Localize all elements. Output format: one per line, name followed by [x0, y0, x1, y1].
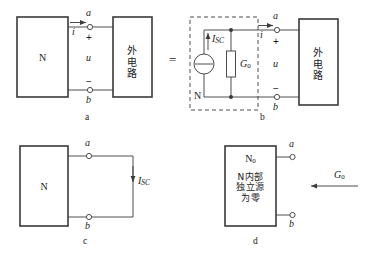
- panel-d-terminal-b-label: b: [289, 219, 294, 229]
- panel-c-isc-label-sub: SC: [141, 178, 150, 187]
- panel-d-terminal-a-label: a: [289, 139, 294, 149]
- panel-b-terminal-b: [274, 94, 279, 99]
- panel-d-description-line-1: N内部: [225, 172, 276, 182]
- panel-a-caption: a: [85, 113, 89, 123]
- panel-d-description-line-3: 为零: [225, 193, 276, 203]
- panel-a-external-label-ch2: 电: [113, 57, 152, 69]
- circuit-figure: N 外 电 路 a i + u − b a = N ISC G0 a i + u…: [0, 0, 367, 254]
- panel-b-dashed-box-label: N: [194, 91, 201, 101]
- panel-b-terminal-b-label: b: [273, 102, 278, 112]
- panel-d-terminal-b: [290, 212, 295, 217]
- panel-d-network-label-sub: 0: [252, 157, 256, 165]
- panel-a-plus-sign: +: [86, 33, 92, 43]
- resistor-icon: [227, 51, 236, 77]
- panel-b-caption: b: [260, 113, 265, 123]
- panel-c-network-label: N: [20, 181, 68, 192]
- panel-d-caption: d: [253, 237, 258, 247]
- circuit-drawing-canvas: [0, 0, 367, 254]
- panel-b-source-label-sub: SC: [215, 36, 224, 45]
- panel-c-terminal-b: [86, 214, 91, 219]
- panel-c-terminal-a: [86, 153, 91, 158]
- panel-a-terminal-b: [87, 87, 92, 92]
- panel-b-terminal-a-label: a: [273, 11, 278, 21]
- panel-d-network-description: N内部 独立源 为零: [225, 172, 276, 203]
- panel-a-external-label: 外 电 路: [113, 45, 152, 80]
- panel-b-source-label: ISC: [212, 34, 224, 44]
- panel-b-voltage-label: u: [273, 59, 278, 69]
- panel-d-terminal-a: [290, 154, 295, 159]
- panel-b-current-label: i: [260, 30, 263, 40]
- panel-c-caption: c: [83, 237, 87, 247]
- panel-a-voltage-label: u: [86, 53, 91, 63]
- panel-a-terminal-b-label: b: [86, 95, 91, 105]
- panel-b-junction-top: [229, 28, 233, 32]
- panel-a-network-label: N: [17, 52, 68, 63]
- panel-c-terminal-b-label: b: [85, 221, 90, 231]
- panel-b-terminal-a: [274, 27, 279, 32]
- panel-c-isc-label: ISC: [138, 176, 150, 186]
- panel-b-external-label-ch3: 路: [299, 70, 338, 82]
- panel-c-terminal-a-label: a: [85, 138, 90, 148]
- panel-b-minus-sign: −: [273, 84, 279, 94]
- equals-sign: =: [169, 53, 176, 66]
- panel-d-description-line-2: 独立源: [225, 182, 276, 192]
- panel-a-external-label-ch1: 外: [113, 45, 152, 57]
- panel-b-external-label: 外 电 路: [299, 47, 338, 82]
- panel-d-conductance-label: G0: [334, 170, 345, 181]
- panel-b-conductance-label: G0: [240, 59, 251, 70]
- panel-b-external-label-ch2: 电: [299, 59, 338, 71]
- panel-b-external-label-ch1: 外: [299, 47, 338, 59]
- panel-b-junction-bottom: [229, 95, 233, 99]
- panel-a-terminal-a-label: a: [86, 8, 91, 18]
- panel-d-conductance-label-sub: 0: [341, 173, 345, 181]
- panel-b-plus-sign: +: [273, 37, 279, 47]
- panel-a-external-label-ch3: 路: [113, 68, 152, 80]
- panel-d-network-label: N0: [225, 153, 276, 165]
- panel-a-terminal-a: [87, 24, 92, 29]
- panel-b-conductance-label-sub: 0: [247, 62, 251, 70]
- panel-a-current-label: i: [72, 27, 75, 37]
- panel-a-minus-sign: −: [86, 77, 92, 87]
